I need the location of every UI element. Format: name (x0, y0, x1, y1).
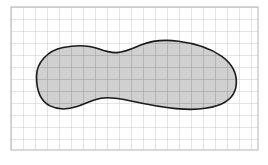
figure-svg (0, 0, 268, 165)
figure-canvas (0, 0, 268, 165)
